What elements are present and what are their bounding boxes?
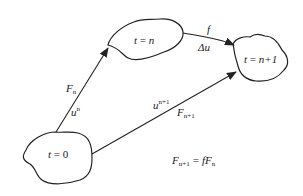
edge-t0-to-tn1: un+1 Fn+1	[92, 72, 236, 154]
edge-t0-to-tn: Fn un	[56, 48, 108, 132]
edge-tn-to-tn1: f Δu	[183, 23, 234, 53]
node-label-tn: t = n	[134, 34, 155, 46]
node-label-t0: t = 0	[48, 148, 69, 160]
node-tn1: t = n+1	[233, 35, 288, 82]
node-label-tn1: t = n+1	[244, 53, 277, 65]
edge-label-un: un	[71, 105, 81, 118]
edge-arrow-t0-tn1	[92, 72, 236, 154]
node-tn: t = n	[108, 19, 183, 60]
node-t0: t = 0	[23, 132, 92, 184]
edge-label-f: f	[207, 23, 212, 35]
edge-label-un1: un+1	[153, 98, 170, 111]
deformation-mapping-diagram: t = 0 t = n t = n+1 Fn un un+1 Fn+1	[0, 0, 303, 196]
edge-label-delta-u: Δu	[197, 41, 210, 53]
edge-label-Fn: Fn	[65, 82, 77, 96]
edge-arrow-t0-tn	[56, 48, 108, 132]
equation-F-composition: Fn+1=fFn	[171, 154, 216, 168]
edge-label-Fn1: Fn+1	[176, 106, 195, 120]
